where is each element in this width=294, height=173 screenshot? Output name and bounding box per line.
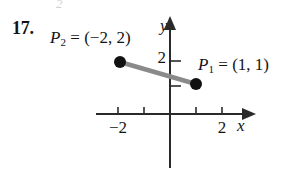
coordinate-plot	[0, 0, 294, 173]
figure-container: 2 17. P2 = (−2, 2) P1 = (1, 1) y x −2 2 …	[0, 0, 294, 173]
point-p1	[190, 78, 202, 90]
point-p2	[114, 56, 126, 68]
segment-p2-p1	[120, 62, 196, 84]
